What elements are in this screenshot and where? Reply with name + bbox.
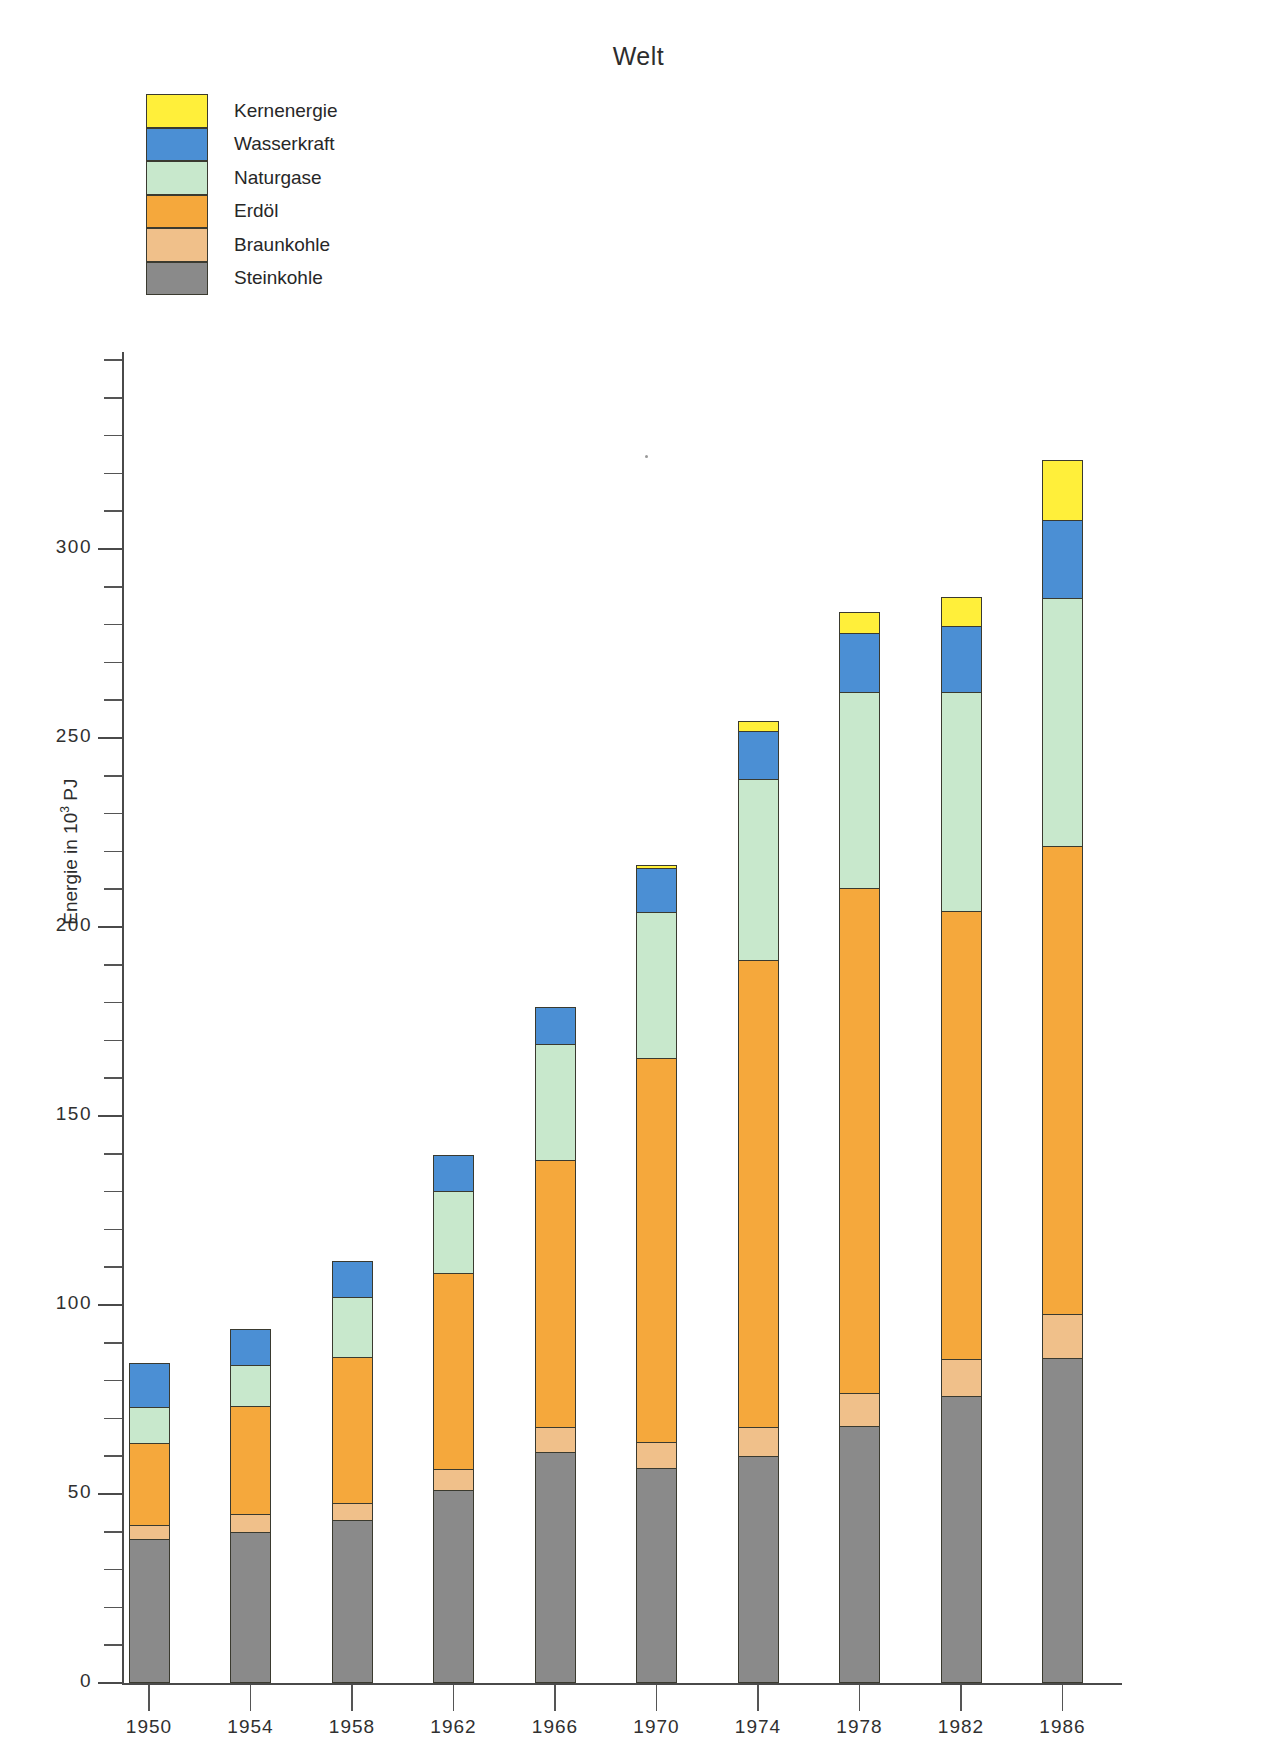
bar-group-1978[interactable] <box>839 612 880 1683</box>
x-tick <box>1062 1685 1064 1711</box>
x-tick-label: 1950 <box>104 1716 194 1738</box>
bar-group-1982[interactable] <box>941 597 982 1683</box>
bar-segment-erdol <box>636 1058 677 1444</box>
bar-segment-naturgase <box>129 1407 170 1445</box>
bars-layer: 1950195419581962196619701974197819821986 <box>0 0 1277 1757</box>
bar-stack <box>839 612 880 1683</box>
bar-segment-braunkohle <box>839 1393 880 1427</box>
bar-segment-steinkohle <box>839 1426 880 1683</box>
bar-segment-braunkohle <box>1042 1314 1083 1359</box>
x-tick <box>554 1685 556 1711</box>
x-tick-label: 1958 <box>307 1716 397 1738</box>
bar-segment-erdol <box>1042 846 1083 1315</box>
x-tick <box>351 1685 353 1711</box>
scan-speck <box>645 455 648 458</box>
bar-segment-braunkohle <box>636 1442 677 1468</box>
bar-stack <box>332 1261 373 1683</box>
bar-segment-wasserkraft <box>332 1261 373 1299</box>
bar-group-1966[interactable] <box>535 1007 576 1683</box>
bar-segment-steinkohle <box>636 1468 677 1683</box>
bar-segment-erdol <box>129 1443 170 1526</box>
bar-segment-braunkohle <box>129 1525 170 1540</box>
bar-segment-kernenergie <box>1042 460 1083 520</box>
bar-stack <box>738 721 779 1683</box>
bar-stack <box>129 1363 170 1683</box>
bar-segment-kernenergie <box>839 612 880 635</box>
x-tick-label: 1974 <box>713 1716 803 1738</box>
bar-segment-wasserkraft <box>839 633 880 693</box>
bar-segment-braunkohle <box>941 1359 982 1397</box>
bar-segment-steinkohle <box>1042 1358 1083 1683</box>
chart-root: Welt KernenergieWasserkraftNaturgaseErdö… <box>0 0 1277 1757</box>
bar-segment-kernenergie <box>941 597 982 627</box>
bar-stack <box>535 1007 576 1683</box>
bar-segment-erdol <box>535 1160 576 1428</box>
x-tick-label: 1954 <box>206 1716 296 1738</box>
bar-segment-naturgase <box>230 1365 271 1407</box>
bar-group-1958[interactable] <box>332 1261 373 1683</box>
bar-segment-braunkohle <box>738 1427 779 1457</box>
x-tick-label: 1970 <box>612 1716 702 1738</box>
bar-stack <box>230 1329 271 1683</box>
bar-segment-erdol <box>839 888 880 1395</box>
x-tick <box>757 1685 759 1711</box>
x-tick <box>148 1685 150 1711</box>
bar-segment-naturgase <box>433 1191 474 1274</box>
bar-segment-braunkohle <box>535 1427 576 1453</box>
bar-segment-naturgase <box>332 1297 373 1357</box>
bar-group-1962[interactable] <box>433 1155 474 1683</box>
bar-segment-braunkohle <box>433 1469 474 1492</box>
x-tick <box>960 1685 962 1711</box>
bar-stack <box>1042 460 1083 1683</box>
bar-segment-naturgase <box>738 779 779 960</box>
x-tick <box>250 1685 252 1711</box>
bar-segment-erdol <box>738 960 779 1429</box>
plot-area: 050100150200250300 Energie in 103 PJ 195… <box>0 0 1277 1757</box>
x-tick-label: 1966 <box>510 1716 600 1738</box>
bar-segment-steinkohle <box>738 1456 779 1683</box>
x-tick-label: 1978 <box>815 1716 905 1738</box>
bar-group-1986[interactable] <box>1042 460 1083 1683</box>
bar-segment-wasserkraft <box>941 626 982 694</box>
bar-group-1974[interactable] <box>738 721 779 1683</box>
x-tick-label: 1982 <box>916 1716 1006 1738</box>
bar-segment-steinkohle <box>535 1452 576 1683</box>
bar-stack <box>636 865 677 1683</box>
x-tick-label: 1962 <box>409 1716 499 1738</box>
bar-segment-naturgase <box>636 912 677 1059</box>
bar-segment-wasserkraft <box>230 1329 271 1367</box>
bar-segment-braunkohle <box>230 1514 271 1533</box>
bar-segment-steinkohle <box>230 1532 271 1683</box>
x-tick <box>859 1685 861 1711</box>
bar-segment-steinkohle <box>332 1520 373 1683</box>
bar-group-1950[interactable] <box>129 1363 170 1683</box>
bar-segment-erdol <box>941 911 982 1361</box>
bar-segment-braunkohle <box>332 1503 373 1522</box>
bar-group-1970[interactable] <box>636 865 677 1683</box>
bar-segment-wasserkraft <box>636 868 677 913</box>
bar-segment-naturgase <box>839 692 880 889</box>
bar-group-1954[interactable] <box>230 1329 271 1683</box>
bar-segment-steinkohle <box>129 1539 170 1683</box>
bar-segment-erdol <box>230 1406 271 1516</box>
bar-segment-naturgase <box>1042 598 1083 847</box>
bar-segment-erdol <box>433 1273 474 1470</box>
x-tick <box>656 1685 658 1711</box>
bar-segment-erdol <box>332 1357 373 1504</box>
x-tick <box>453 1685 455 1711</box>
bar-segment-naturgase <box>535 1044 576 1161</box>
bar-segment-wasserkraft <box>535 1007 576 1045</box>
bar-segment-wasserkraft <box>738 731 779 780</box>
bar-stack <box>433 1155 474 1683</box>
bar-segment-steinkohle <box>941 1396 982 1683</box>
bar-segment-naturgase <box>941 692 982 911</box>
bar-stack <box>941 597 982 1683</box>
bar-segment-wasserkraft <box>1042 520 1083 599</box>
bar-segment-steinkohle <box>433 1490 474 1683</box>
bar-segment-wasserkraft <box>129 1363 170 1408</box>
bar-segment-wasserkraft <box>433 1155 474 1193</box>
x-tick-label: 1986 <box>1018 1716 1108 1738</box>
